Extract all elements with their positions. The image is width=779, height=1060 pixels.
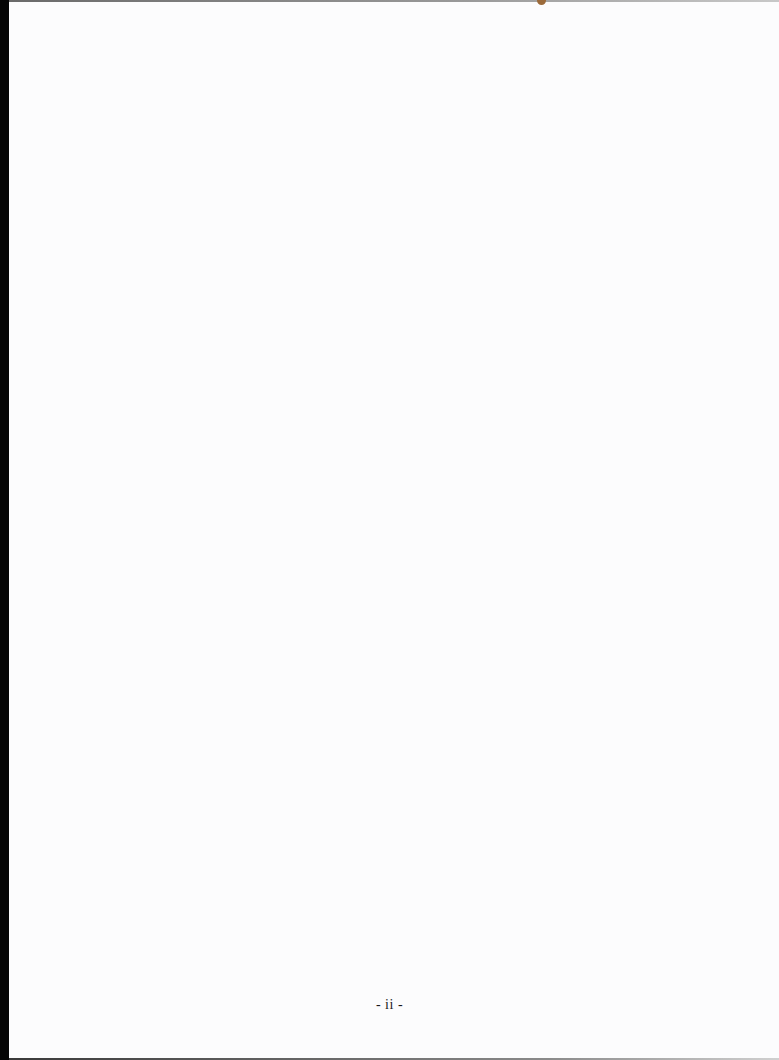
scan-artifact-mark [537, 0, 546, 5]
page-number: - ii - [0, 997, 779, 1013]
scan-top-edge [9, 0, 779, 2]
scan-left-edge [0, 0, 9, 1060]
scanned-page: - ii - [0, 0, 779, 1060]
